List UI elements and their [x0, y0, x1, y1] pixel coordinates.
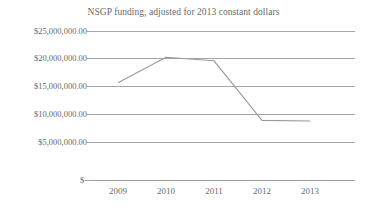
- series-svg: [93, 31, 355, 180]
- y-axis-label-25m: $25,000,000.00: [0, 26, 87, 36]
- y-axis-label-zero: $-: [0, 175, 87, 185]
- x-axis-line: [93, 180, 355, 181]
- y-axis-label-10m: $10,000,000.00: [0, 109, 87, 119]
- y-axis-label-20m: $20,000,000.00: [0, 53, 87, 63]
- series-line-nsgp-funding: [118, 57, 310, 121]
- plot-area: [93, 31, 355, 180]
- y-axis-label-5m: $5,000,000.00: [0, 137, 87, 147]
- y-axis-label-15m: $15,000,000.00: [0, 81, 87, 91]
- chart-title: NSGP funding, adjusted for 2013 constant…: [0, 6, 367, 18]
- x-axis-label-2013: 2013: [280, 186, 340, 197]
- chart-container: NSGP funding, adjusted for 2013 constant…: [0, 0, 367, 212]
